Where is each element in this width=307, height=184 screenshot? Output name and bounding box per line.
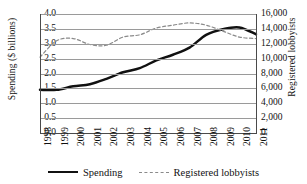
- x-axis-tick-label: 2003: [127, 127, 137, 146]
- gridline: [40, 29, 256, 30]
- x-axis-tick-label: 2002: [110, 127, 120, 146]
- gridline: [40, 88, 256, 89]
- x-axis-tick-label: 2010: [243, 127, 253, 146]
- legend-solid-line-icon: [48, 171, 78, 173]
- y-axis-right-title: Registered lobbyists: [287, 12, 297, 102]
- x-axis-tick-label: 2004: [144, 127, 154, 146]
- y-axis-right-tick-label: 10,000: [261, 54, 287, 64]
- y-axis-right-tick-label: 14,000: [261, 24, 287, 34]
- y-axis-left-title: Spending ($ billions): [7, 16, 17, 102]
- x-axis-tick-label: 2008: [210, 127, 220, 146]
- x-axis-tick-label: 2006: [177, 127, 187, 146]
- gridline: [40, 118, 256, 119]
- x-axis-tick-label: 2005: [160, 127, 170, 146]
- y-axis-right-tick-label: 12,000: [261, 39, 287, 49]
- y-axis-right-tick-label: 6,000: [261, 83, 282, 93]
- y-axis-left-line: [40, 14, 41, 134]
- chart-container: Spending ($ billions) Registered lobbyis…: [0, 0, 307, 184]
- x-axis-tick-label: 2000: [77, 127, 87, 146]
- x-axis-tick-label: 1999: [61, 127, 71, 146]
- chart-legend: SpendingRegistered lobbyists: [0, 163, 307, 181]
- gridline: [40, 103, 256, 104]
- x-axis-ticks: 1998199920002001200220032004200520062007…: [40, 134, 256, 162]
- y-axis-right-tick-label: 8,000: [261, 69, 282, 79]
- gridline: [40, 44, 256, 45]
- y-axis-right-tick-label: 4,000: [261, 98, 282, 108]
- x-axis-tick-label: 2001: [94, 127, 104, 146]
- x-axis-tick-label: 2011: [260, 127, 270, 146]
- y-axis-right-tick-label: 2,000: [261, 113, 282, 123]
- plot-area: [40, 14, 256, 133]
- x-axis-tick-label: 1998: [44, 127, 54, 146]
- y-axis-right-line: [256, 14, 257, 134]
- x-axis-tick-label: 2007: [194, 127, 204, 146]
- gridline: [40, 74, 256, 75]
- y-axis-right-tick-label: 16,000: [261, 9, 287, 19]
- gridline: [40, 14, 256, 15]
- legend-label: Spending: [83, 167, 123, 178]
- gridline: [40, 59, 256, 60]
- legend-dashed-line-icon: [139, 172, 169, 173]
- x-axis-tick-label: 2009: [227, 127, 237, 146]
- legend-label: Registered lobbyists: [174, 167, 259, 178]
- legend-item[interactable]: Registered lobbyists: [139, 167, 259, 178]
- legend-item[interactable]: Spending: [48, 167, 123, 178]
